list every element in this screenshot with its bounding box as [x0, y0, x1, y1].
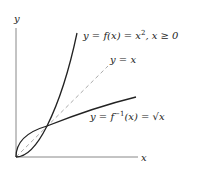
y-axis-label: y	[13, 13, 20, 24]
x-axis-label: x	[141, 152, 147, 163]
square-curve-label: y = f(x) = x2, x ≥ 0	[82, 29, 179, 41]
sqrt-curve-label: y = f−1(x) = √x	[89, 110, 165, 122]
sqrt-curve	[16, 97, 136, 157]
identity-label: y = x	[109, 54, 136, 65]
square-curve	[16, 33, 77, 157]
function-inverse-diagram: y x y = f(x) = x2, x ≥ 0 y = x y = f−1(x…	[0, 0, 209, 176]
